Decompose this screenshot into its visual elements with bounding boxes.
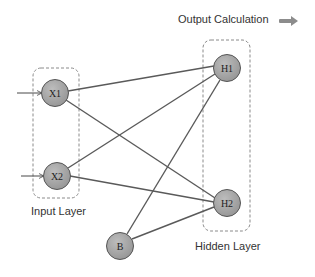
edge-x1-h1 [68, 66, 214, 91]
edges [66, 66, 220, 239]
right-arrow-icon [279, 16, 298, 26]
svg-text:H2: H2 [221, 198, 233, 209]
node-h1: H1 [214, 55, 241, 82]
input-layer-label: Input Layer [31, 205, 86, 217]
node-bias: B [107, 233, 134, 260]
edge-x1-h2 [66, 100, 215, 198]
diagram-graphics: X1 X2 H1 H2 B [0, 0, 315, 277]
svg-text:X2: X2 [51, 171, 63, 182]
svg-text:H1: H1 [221, 63, 233, 74]
hidden-layer-label: Hidden Layer [195, 240, 260, 252]
node-x1: X1 [42, 80, 69, 107]
edge-b-h2 [132, 207, 214, 239]
svg-text:B: B [117, 241, 124, 252]
edge-b-h1 [127, 80, 220, 234]
edge-x2-h1 [68, 74, 215, 168]
output-calculation-label: Output Calculation [178, 13, 269, 25]
svg-text:X1: X1 [49, 88, 61, 99]
neural-network-diagram: X1 X2 H1 H2 B Output Calculation Input L… [0, 0, 315, 277]
edge-x2-h2 [70, 176, 214, 202]
node-h2: H2 [214, 190, 241, 217]
node-x2: X2 [44, 163, 71, 190]
